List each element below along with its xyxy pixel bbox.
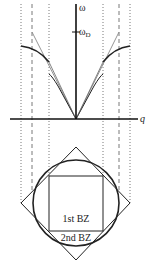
dispersion-upper-left — [21, 46, 49, 62]
brillouin-zone-diagram: ω ωD q 1st BZ 2nd BZ — [0, 0, 157, 271]
omega-d-subscript: D — [86, 31, 91, 39]
first-zone-label: 1st BZ — [63, 213, 90, 224]
dispersion-lower-right — [76, 74, 103, 119]
second-zone-diamond — [21, 147, 130, 260]
dispersion-upper-right — [103, 46, 130, 62]
dispersion-lower-left — [49, 74, 76, 119]
dispersion-jump-right — [76, 62, 103, 119]
brillouin-zones — [21, 147, 130, 260]
dispersion-jump-left — [49, 62, 76, 119]
omega-d-label: ωD — [79, 26, 91, 39]
second-zone-label: 2nd BZ — [61, 232, 91, 243]
q-axis-label: q — [140, 113, 145, 124]
omega-axis-label: ω — [79, 2, 86, 13]
